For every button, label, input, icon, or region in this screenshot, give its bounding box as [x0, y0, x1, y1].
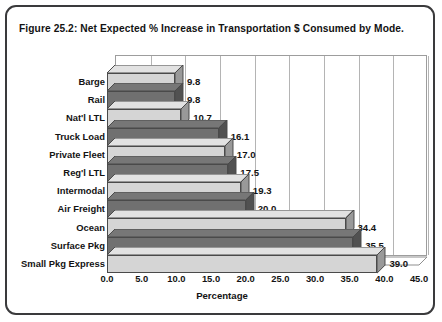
x-tick-label: 30.0 — [306, 274, 324, 283]
bar-row: 10.7 — [107, 101, 419, 119]
bar-top-face — [107, 210, 354, 218]
category-label: Air Freight — [58, 204, 105, 213]
x-tick-label: 10.0 — [167, 274, 185, 283]
bar-series: 9.89.810.716.117.017.519.320.034.435.539… — [107, 65, 419, 265]
bar-row: 16.1 — [107, 120, 419, 138]
bar-top-face — [107, 83, 183, 91]
category-label: Surface Pkg — [51, 241, 105, 250]
bar-top-face — [107, 65, 183, 73]
x-axis-title: Percentage — [7, 290, 437, 301]
bar-row: 9.8 — [107, 83, 419, 101]
figure-panel: Figure 25.2: Net Expected % Increase in … — [5, 5, 435, 315]
x-tick-label: 45.0 — [410, 274, 428, 283]
bar-row: 39.0 — [107, 247, 419, 265]
category-label: Intermodal — [57, 186, 105, 195]
bar-row: 34.4 — [107, 210, 419, 228]
category-label: Truck Load — [55, 132, 105, 141]
category-label: Ocean — [76, 223, 105, 232]
category-label: Private Fleet — [49, 150, 105, 159]
category-axis-labels: BargeRailNat'l LTLTruck LoadPrivate Flee… — [7, 47, 105, 282]
bar-row: 19.3 — [107, 174, 419, 192]
x-tick-label: 40.0 — [375, 274, 393, 283]
bar-row: 20.0 — [107, 192, 419, 210]
category-label: Reg'l LTL — [63, 168, 105, 177]
bar-row: 17.0 — [107, 138, 419, 156]
x-tick-label: 5.0 — [135, 274, 148, 283]
x-tick-label: 15.0 — [202, 274, 220, 283]
bar-top-face — [107, 156, 236, 164]
bar-top-face — [107, 192, 254, 200]
bar-top-face — [107, 174, 249, 182]
bar-row: 35.5 — [107, 229, 419, 247]
bar-top-face — [107, 247, 385, 255]
figure-title: Figure 25.2: Net Expected % Increase in … — [19, 23, 404, 34]
bar-top-face — [107, 229, 361, 237]
x-tick-label: 25.0 — [271, 274, 289, 283]
category-label: Small Pkg Express — [21, 259, 105, 268]
bar-top-face — [107, 138, 233, 146]
x-tick-label: 20.0 — [237, 274, 255, 283]
bar-top-face — [107, 120, 227, 128]
x-tick-label: 0.0 — [100, 274, 113, 283]
chart-plot-area: 9.89.810.716.117.017.519.320.034.435.539… — [102, 47, 437, 282]
bar-row: 9.8 — [107, 65, 419, 83]
category-label: Barge — [78, 77, 105, 86]
bar-top-face — [107, 101, 189, 109]
category-label: Nat'l LTL — [66, 113, 105, 122]
x-tick-label: 35.0 — [341, 274, 359, 283]
bar-row: 17.5 — [107, 156, 419, 174]
gridline — [428, 56, 429, 255]
